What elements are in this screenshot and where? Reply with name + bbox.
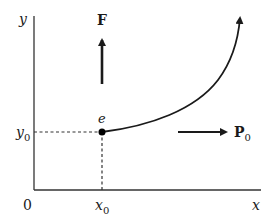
- point-e-label: e: [98, 111, 106, 126]
- momentum-label: P0: [234, 124, 251, 143]
- point-e-dot: [99, 129, 106, 136]
- y0-label: y0: [15, 124, 30, 143]
- x0-label: x0: [95, 197, 109, 216]
- diagram-canvas: y x 0 e x0 y0 F P0: [0, 0, 268, 223]
- force-label: F: [97, 12, 107, 28]
- x-axis-label: x: [252, 197, 260, 213]
- origin-label: 0: [23, 197, 32, 213]
- diagram-svg: y x 0 e x0 y0 F P0: [0, 0, 268, 223]
- y-axis-label: y: [18, 11, 28, 27]
- trajectory-curve: [102, 18, 240, 132]
